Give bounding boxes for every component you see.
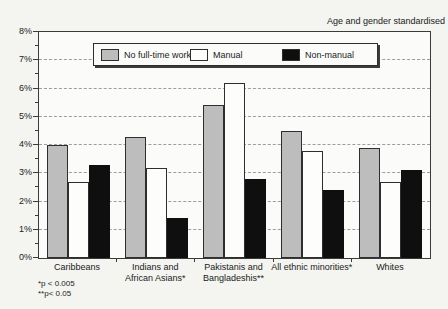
legend-item-no-full-time-worker: No full-time worker [101,44,199,65]
category-label: All ethnic minorities* [268,262,356,273]
bar-chart: Age and gender standardised 0%1%2%3%4%5%… [0,0,448,309]
y-tick-label: 3% [6,167,32,177]
y-tick-major [33,31,38,32]
y-tick-major [33,88,38,89]
y-tick-label: 5% [6,111,32,121]
bar-non-manual [401,170,422,258]
footnote-2: **p< 0.05 [38,289,75,299]
legend-swatch-no-full-time-worker [101,49,119,61]
y-tick-minor [35,45,38,46]
bar-manual [68,182,89,258]
bar-non-manual [167,218,188,258]
y-tick-major [33,172,38,173]
y-tick-major [33,144,38,145]
chart-title: Age and gender standardised [327,16,445,26]
bar-non-manual [245,179,266,258]
y-tick-label: 6% [6,83,32,93]
legend-label-no-full-time-worker: No full-time worker [124,50,199,60]
footnote-1: *p < 0.005 [38,279,75,289]
y-tick-minor [35,130,38,131]
bar-manual [302,151,323,258]
y-tick-major [33,116,38,117]
y-tick-minor [35,215,38,216]
bar-manual [224,83,245,258]
category-label: Indians and African Asians* [111,262,199,283]
y-tick-major [33,257,38,258]
legend-swatch-non-manual [282,49,300,61]
y-tick-minor [35,243,38,244]
y-tick-label: 4% [6,139,32,149]
y-tick-label: 7% [6,54,32,64]
category-label: Whites [346,262,434,273]
legend: No full-time workerManualNon-manual [93,43,378,66]
bar-non-manual [323,190,344,258]
category-label: Caribbeans [33,262,121,273]
bar-no-full-time-worker [125,137,146,258]
bar-no-full-time-worker [203,105,224,258]
bar-no-full-time-worker [281,131,302,258]
legend-item-non-manual: Non-manual [282,44,354,65]
bar-manual [380,182,401,258]
legend-label-non-manual: Non-manual [305,50,354,60]
legend-label-manual: Manual [213,50,243,60]
y-tick-minor [35,73,38,74]
legend-swatch-manual [190,49,208,61]
y-tick-label: 2% [6,196,32,206]
bar-no-full-time-worker [359,148,380,258]
y-tick-minor [35,158,38,159]
y-tick-major [33,201,38,202]
y-tick-minor [35,186,38,187]
y-tick-label: 8% [6,26,32,36]
y-tick-major [33,229,38,230]
y-tick-label: 0% [6,252,32,262]
footnotes: *p < 0.005 **p< 0.05 [38,279,75,299]
bar-non-manual [89,165,110,258]
y-tick-minor [35,102,38,103]
y-tick-major [33,59,38,60]
category-label: Pakistanis and Bangladeshis** [190,262,278,283]
bar-manual [146,168,167,258]
y-tick-label: 1% [6,224,32,234]
bar-no-full-time-worker [47,145,68,258]
legend-item-manual: Manual [190,44,243,65]
